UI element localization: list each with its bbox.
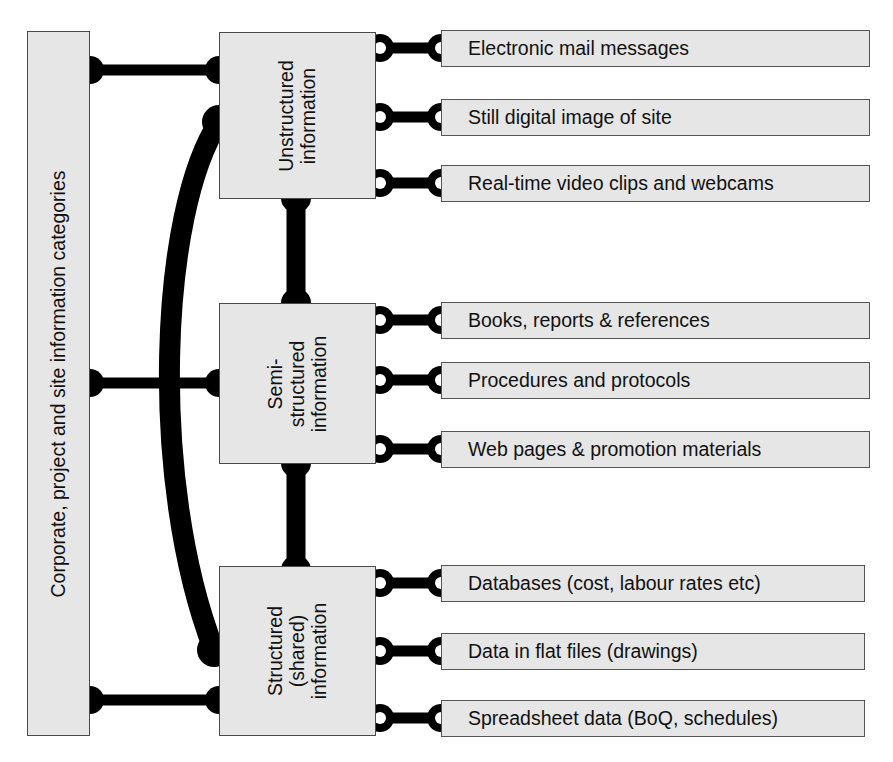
category-box-structured-shared[interactable]: Structured (shared) information [219, 566, 376, 736]
item-bar-data-in-flat-files-drawings[interactable]: Data in flat files (drawings) [441, 633, 865, 670]
item-bar-label: Books, reports & references [442, 309, 710, 332]
category-label-line: structured [287, 335, 309, 431]
item-bar-databases-cost-labour-rates[interactable]: Databases (cost, labour rates etc) [441, 565, 865, 602]
category-box-structured-shared-label: Structured (shared) information [265, 603, 330, 699]
category-label-line: information [308, 335, 330, 431]
item-bar-label: Databases (cost, labour rates etc) [442, 572, 761, 595]
link-unstructured-to-semi-structured [281, 183, 311, 318]
link-spine-to-semi-structured [76, 369, 233, 397]
category-label-line: (shared) [287, 603, 309, 699]
item-bar-spreadsheet-data-boq-schedules[interactable]: Spreadsheet data (BoQ, schedules) [441, 700, 865, 737]
link-spine-to-structured [76, 686, 233, 714]
item-bar-label: Procedures and protocols [442, 369, 690, 392]
category-label-line: information [308, 603, 330, 699]
link-semi-structured-to-structured [281, 448, 311, 585]
diagram-canvas: Corporate, project and site information … [0, 0, 893, 762]
item-bar-label: Data in flat files (drawings) [442, 640, 698, 663]
category-box-semi-structured[interactable]: Semi- structured information [219, 303, 376, 464]
item-bar-books-reports-references[interactable]: Books, reports & references [441, 302, 870, 339]
item-bar-electronic-mail-messages[interactable]: Electronic mail messages [441, 30, 870, 67]
category-box-unstructured[interactable]: Unstructured information [219, 32, 376, 199]
category-label-line: Structured [265, 603, 287, 699]
item-bar-label: Real-time video clips and webcams [442, 172, 774, 195]
category-label-line: information [298, 60, 320, 172]
item-bar-real-time-video-clips-and-webcams[interactable]: Real-time video clips and webcams [441, 165, 870, 202]
link-spine-to-unstructured [76, 56, 233, 84]
category-box-semi-structured-label: Semi- structured information [265, 335, 330, 431]
spine-box-information-categories[interactable]: Corporate, project and site information … [27, 31, 90, 736]
category-label-line: Semi- [265, 335, 287, 431]
item-bar-label: Spreadsheet data (BoQ, schedules) [442, 707, 778, 730]
item-bar-still-digital-image-of-site[interactable]: Still digital image of site [441, 99, 870, 136]
category-box-unstructured-label: Unstructured information [276, 60, 320, 172]
item-bar-label: Web pages & promotion materials [442, 438, 761, 461]
item-bar-label: Still digital image of site [442, 106, 672, 129]
item-bar-web-pages-promotion-materials[interactable]: Web pages & promotion materials [441, 431, 870, 468]
category-label-line: Unstructured [276, 60, 298, 172]
spine-box-label: Corporate, project and site information … [48, 170, 70, 597]
item-bar-procedures-and-protocols[interactable]: Procedures and protocols [441, 362, 870, 399]
item-bar-label: Electronic mail messages [442, 37, 689, 60]
